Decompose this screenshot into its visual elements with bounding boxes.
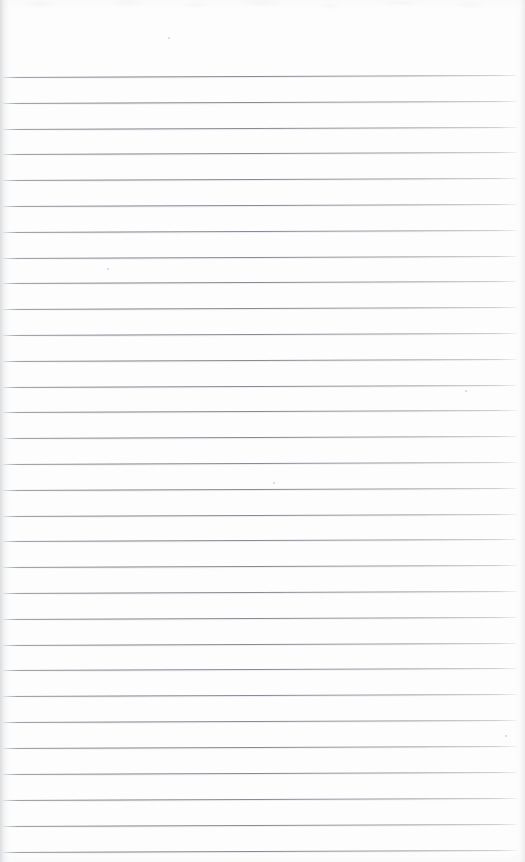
rule-line xyxy=(3,668,517,671)
rule-line xyxy=(3,798,517,801)
rule-line xyxy=(3,643,517,646)
right-edge-shadow xyxy=(516,0,525,862)
top-margin-area xyxy=(0,0,525,76)
rule-line xyxy=(3,617,517,620)
rule-line xyxy=(3,462,517,465)
rule-line xyxy=(3,565,517,568)
rule-line xyxy=(3,720,517,723)
scan-speck xyxy=(465,390,467,392)
rule-line xyxy=(3,824,517,827)
scan-speck xyxy=(273,482,275,484)
paper-surface xyxy=(0,0,525,862)
scanned-page xyxy=(0,0,525,862)
rule-line xyxy=(3,127,517,130)
rule-line xyxy=(3,256,517,259)
left-edge-shadow xyxy=(0,0,11,862)
rule-line xyxy=(3,772,517,775)
rule-line xyxy=(3,850,517,853)
rule-line xyxy=(3,746,517,749)
ruled-lines-layer xyxy=(0,0,525,862)
scan-speck xyxy=(505,735,507,737)
rule-line xyxy=(3,385,517,388)
rule-line xyxy=(3,410,517,413)
rule-line xyxy=(3,694,517,697)
rule-line xyxy=(3,488,517,491)
rule-line xyxy=(3,230,517,233)
rule-line xyxy=(3,539,517,542)
rule-line xyxy=(3,152,517,155)
scan-speck xyxy=(107,268,109,270)
rule-line xyxy=(3,307,517,310)
rule-line xyxy=(3,359,517,362)
rule-line xyxy=(3,101,517,104)
rule-line xyxy=(3,281,517,284)
rule-line xyxy=(3,436,517,439)
rule-line xyxy=(3,178,517,181)
rule-line xyxy=(3,514,517,517)
rule-line xyxy=(3,591,517,594)
rule-line xyxy=(3,333,517,336)
rule-line xyxy=(3,204,517,207)
